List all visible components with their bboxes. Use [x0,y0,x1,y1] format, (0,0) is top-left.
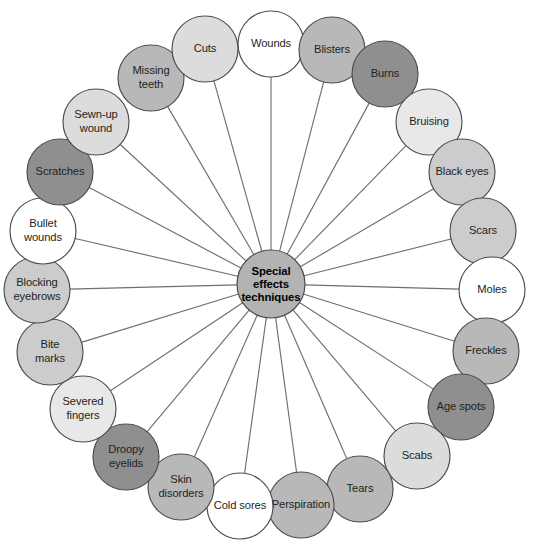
node-circle-cuts[interactable] [172,16,238,82]
spoke-line-perspiration [275,317,296,474]
node-blocking-eyebrows[interactable]: Blockingeyebrows [4,257,70,323]
node-circle-sewn-up-wound[interactable] [63,89,129,155]
node-severed-fingers[interactable]: Severedfingers [50,376,116,442]
node-circle-tears[interactable] [327,456,393,522]
node-circle-cold-sores[interactable] [207,473,273,539]
spoke-line-bite-marks [81,294,240,343]
node-circle-black-eyes[interactable] [429,139,495,205]
diagram-canvas: WoundsBlistersBurnsBruisingBlack eyesSca… [0,0,537,540]
spoke-line-scratches [88,187,242,269]
spoke-line-bullet-wounds [74,238,239,276]
spoke-line-sewn-up-wound [119,144,246,262]
spoke-line-missing-teeth [167,106,254,256]
hub-circle[interactable] [237,250,305,318]
node-black-eyes[interactable]: Black eyes [429,139,495,205]
node-bite-marks[interactable]: Bitemarks [17,319,83,385]
radial-diagram: WoundsBlistersBurnsBruisingBlack eyesSca… [0,0,537,540]
node-moles[interactable]: Moles [459,257,525,323]
spoke-line-black-eyes [299,188,434,267]
node-circle-wounds[interactable] [238,11,304,77]
node-circle-scabs[interactable] [384,423,450,489]
node-circle-perspiration[interactable] [268,472,334,538]
node-circle-bullet-wounds[interactable] [10,198,76,264]
node-perspiration[interactable]: Perspiration [268,472,334,538]
node-wounds[interactable]: Wounds [238,11,304,77]
spoke-line-severed-fingers [110,302,244,391]
spoke-line-moles [304,285,460,289]
spoke-line-blocking-eyebrows [69,285,238,289]
spoke-line-droopy-eyelids [147,309,250,432]
node-circle-bite-marks[interactable] [17,319,83,385]
spoke-line-cold-sores [244,317,266,475]
node-tears[interactable]: Tears [327,456,393,522]
spoke-line-freckles [303,294,456,342]
node-cold-sores[interactable]: Cold sores [207,473,273,539]
node-circle-blocking-eyebrows[interactable] [4,257,70,323]
hub-node[interactable]: Specialeffectstechniques [237,250,305,318]
node-cuts[interactable]: Cuts [172,16,238,82]
node-scars[interactable]: Scars [450,198,516,264]
spoke-line-burns [287,102,370,255]
node-circle-scars[interactable] [450,198,516,264]
node-circle-severed-fingers[interactable] [50,376,116,442]
node-circle-moles[interactable] [459,257,525,323]
spoke-line-scars [303,239,452,276]
node-sewn-up-wound[interactable]: Sewn-upwound [63,89,129,155]
node-bullet-wounds[interactable]: Bulletwounds [10,198,76,264]
node-scabs[interactable]: Scabs [384,423,450,489]
spoke-line-skin-disorders [194,314,258,458]
spoke-line-bruising [294,145,407,260]
spoke-line-age-spots [299,302,434,390]
